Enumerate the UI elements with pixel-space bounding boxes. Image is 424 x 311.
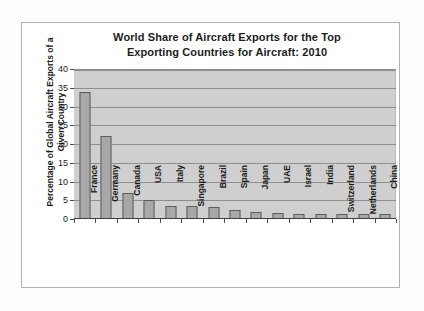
x-axis-tick-label: Netherlands	[368, 165, 378, 225]
x-axis-tick-label: Japan	[260, 165, 270, 225]
x-axis-tick-label: USA	[153, 165, 163, 225]
chart-title-line-1: World Share of Aircraft Exports for the …	[62, 30, 392, 45]
y-axis-tick-label: 25	[58, 120, 68, 130]
plot-wrap: 0510152025303540 FranceGermanyCanadaUSAI…	[74, 69, 396, 219]
x-axis-tick-label: Spain	[239, 165, 249, 225]
x-axis-tick-label: Canada	[132, 165, 142, 225]
y-axis-tick-label: 20	[58, 139, 68, 149]
x-axis-tick-label: Switzerland	[346, 165, 356, 225]
y-axis-tick-label: 10	[58, 177, 68, 187]
x-axis-tick-label: UAE	[282, 165, 292, 225]
x-axis-tick-label: Italy	[175, 165, 185, 225]
x-axis-tick-label: Brazil	[218, 165, 228, 225]
x-axis-tick-label: Singapore	[196, 165, 206, 225]
y-axis-tick-label: 5	[63, 195, 68, 205]
y-axis-title-line-1: Percentage of Global Aircraft Exports of…	[45, 27, 56, 217]
x-axis-tick	[74, 219, 75, 223]
y-axis-tick-label: 15	[58, 158, 68, 168]
x-axis-tick-label: Israel	[303, 165, 313, 225]
chart-frame: World Share of Aircraft Exports for the …	[21, 22, 400, 288]
chart-title-line-2: Exporting Countries for Aircraft: 2010	[62, 45, 392, 60]
y-axis-tick-label: 30	[58, 102, 68, 112]
y-axis-tick-label: 0	[63, 214, 68, 224]
chart-title: World Share of Aircraft Exports for the …	[62, 30, 392, 60]
x-axis-tick-label: China	[389, 165, 399, 225]
x-axis-tick-label: India	[325, 165, 335, 225]
x-axis-tick-label: France	[89, 165, 99, 225]
y-axis-tick-label: 40	[58, 64, 68, 74]
x-axis-tick-label: Germany	[110, 165, 120, 225]
chart-page: World Share of Aircraft Exports for the …	[0, 0, 424, 311]
y-axis-tick-label: 35	[58, 83, 68, 93]
